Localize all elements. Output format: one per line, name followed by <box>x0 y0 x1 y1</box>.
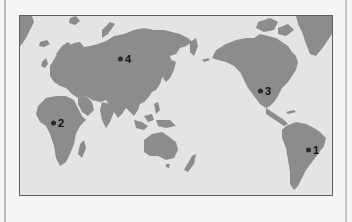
right-rule <box>345 0 347 222</box>
marker-label: 3 <box>265 86 271 97</box>
marker-3: 3 <box>258 86 271 97</box>
marker-label: 1 <box>313 145 319 156</box>
marker-dot-icon <box>258 89 263 94</box>
left-rule <box>4 0 6 222</box>
marker-1: 1 <box>306 145 319 156</box>
marker-dot-icon <box>306 148 311 153</box>
world-map-graphic <box>20 16 332 195</box>
map-figure: 1 2 3 4 <box>0 0 352 222</box>
marker-2: 2 <box>51 118 64 129</box>
marker-dot-icon <box>118 57 123 62</box>
marker-label: 2 <box>58 118 64 129</box>
marker-label: 4 <box>125 54 131 65</box>
world-map: 1 2 3 4 <box>19 15 333 196</box>
marker-dot-icon <box>51 121 56 126</box>
marker-4: 4 <box>118 54 131 65</box>
